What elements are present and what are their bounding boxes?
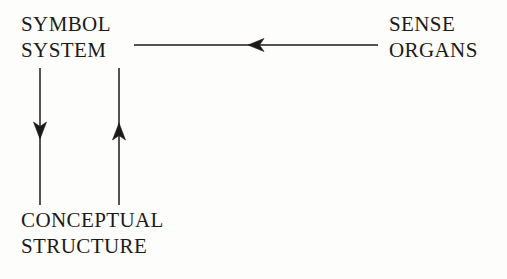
arrow-symbol-system-to-conceptual-structure — [34, 68, 47, 205]
arrowhead-down-icon — [34, 122, 47, 139]
node-conceptual-structure-line1: CONCEPTUAL — [21, 207, 164, 233]
arrow-sense-organs-to-symbol-system — [134, 39, 378, 52]
node-sense-organs-line2: ORGANS — [389, 37, 478, 63]
node-symbol-system-line2: SYSTEM — [21, 37, 111, 63]
arrowhead-up-icon — [113, 123, 126, 140]
arrow-conceptual-structure-to-symbol-system — [113, 68, 126, 205]
node-sense-organs: SENSE ORGANS — [389, 11, 478, 63]
node-conceptual-structure: CONCEPTUAL STRUCTURE — [21, 207, 164, 259]
node-symbol-system: SYMBOL SYSTEM — [21, 11, 111, 63]
diagram-canvas: SYMBOL SYSTEM SENSE ORGANS CONCEPTUAL ST… — [0, 0, 507, 279]
arrowhead-left-icon — [248, 39, 264, 52]
node-sense-organs-line1: SENSE — [389, 11, 478, 37]
node-conceptual-structure-line2: STRUCTURE — [21, 233, 164, 259]
node-symbol-system-line1: SYMBOL — [21, 11, 111, 37]
